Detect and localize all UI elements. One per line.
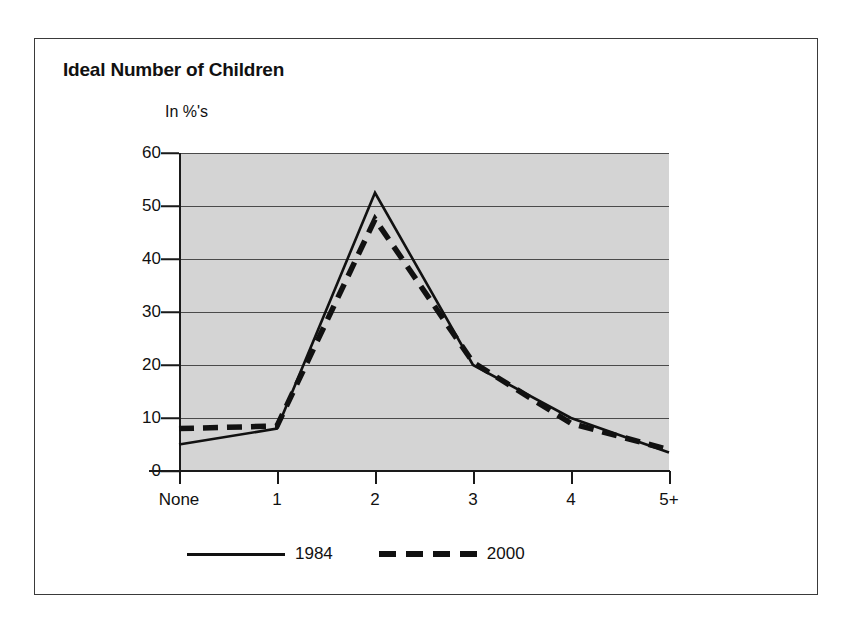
x-tick-mark-5 [669, 471, 671, 484]
y-tick-label-40: 40 [113, 249, 161, 269]
legend-label-1984: 1984 [295, 544, 333, 564]
legend-swatch-solid-icon [187, 553, 285, 556]
y-tick-label-50: 50 [113, 196, 161, 216]
y-tick-mark-20 [161, 364, 179, 366]
x-tick-label-3: 3 [468, 490, 477, 510]
x-tick-mark-4 [571, 471, 573, 484]
y-tick-label-30: 30 [113, 302, 161, 322]
legend-item-2000[interactable]: 2000 [379, 544, 525, 564]
legend-swatch-dashed-icon [379, 551, 477, 557]
x-tick-label-2: 2 [370, 490, 379, 510]
series-line-1984 [179, 193, 669, 453]
scan-artifact [0, 0, 854, 30]
y-tick-mark-40 [161, 258, 179, 260]
series-line-2000 [179, 219, 669, 450]
y-axis-unit-label: In %'s [165, 103, 208, 121]
x-tick-mark-0 [179, 471, 181, 484]
y-tick-mark-30 [161, 311, 179, 313]
legend-label-2000: 2000 [487, 544, 525, 564]
x-tick-label-4: 4 [566, 490, 575, 510]
y-tick-label-60: 60 [113, 143, 161, 163]
chart-legend: 19842000 [35, 544, 819, 574]
series-lines-group [179, 153, 669, 471]
x-tick-label-1: 1 [272, 490, 281, 510]
legend-item-1984[interactable]: 1984 [187, 544, 333, 564]
x-tick-mark-1 [277, 471, 279, 484]
y-tick-label-10: 10 [113, 408, 161, 428]
x-tick-mark-2 [375, 471, 377, 484]
y-tick-mark-50 [161, 205, 179, 207]
y-tick-mark-10 [161, 417, 179, 419]
y-tick-mark-60 [161, 152, 179, 154]
y-tick-label-20: 20 [113, 355, 161, 375]
x-tick-label-0: None [159, 490, 200, 510]
chart-figure-frame: Ideal Number of Children In %'s 01020304… [34, 38, 818, 595]
chart-title: Ideal Number of Children [63, 59, 284, 81]
x-tick-mark-3 [473, 471, 475, 484]
x-tick-label-5: 5+ [659, 490, 678, 510]
